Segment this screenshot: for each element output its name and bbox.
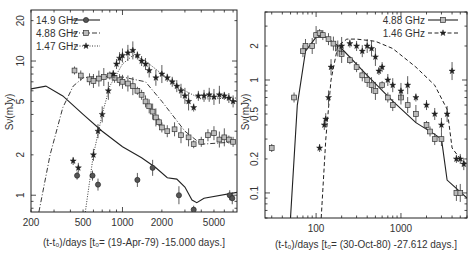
x-tick-label: 2000 bbox=[151, 217, 174, 228]
data-point bbox=[390, 103, 395, 108]
right-light-curve-plot: 10010000.10.20.512Sν(mJy)(t-t₀)/days [t₀… bbox=[240, 12, 467, 250]
data-point bbox=[424, 123, 429, 128]
data-point bbox=[222, 135, 227, 140]
data-point bbox=[354, 65, 359, 70]
data-point bbox=[428, 129, 433, 134]
data-layer bbox=[31, 41, 237, 213]
y-tick-label: 20 bbox=[15, 15, 26, 27]
data-point bbox=[143, 99, 148, 104]
x-tick-label: 100 bbox=[308, 223, 325, 234]
data-point bbox=[373, 89, 378, 94]
data-point bbox=[320, 33, 325, 38]
legend-marker bbox=[441, 18, 446, 23]
data-point bbox=[414, 112, 419, 117]
data-point bbox=[172, 127, 177, 132]
data-point bbox=[186, 135, 191, 140]
y-tick-label: 1 bbox=[249, 77, 260, 83]
model-curve bbox=[321, 39, 467, 218]
data-point bbox=[217, 137, 222, 142]
y-tick-label: 0.1 bbox=[249, 186, 260, 200]
data-point bbox=[120, 79, 125, 84]
data-point bbox=[74, 173, 79, 178]
legend-label: 14.9 GHz bbox=[36, 15, 78, 26]
data-point bbox=[191, 142, 196, 147]
data-point bbox=[150, 109, 155, 114]
data-point bbox=[347, 58, 352, 63]
legend-marker bbox=[83, 43, 89, 49]
x-tick-label: 5000 bbox=[203, 217, 226, 228]
y-tick-label: 0.2 bbox=[249, 152, 260, 166]
data-layer bbox=[269, 26, 467, 218]
x-axis-label: (t-t₀)/days [t₀= (19-Apr-79) -15.000 day… bbox=[43, 237, 225, 248]
data-point bbox=[179, 133, 184, 138]
data-point bbox=[303, 44, 308, 49]
data-point bbox=[212, 131, 217, 136]
data-point bbox=[125, 81, 130, 86]
legend-label: 4.88 GHz bbox=[383, 15, 425, 26]
data-point bbox=[326, 37, 331, 42]
data-point bbox=[96, 76, 101, 81]
data-point bbox=[165, 129, 170, 134]
x-tick-label: 200 bbox=[23, 217, 40, 228]
legend-marker bbox=[83, 17, 88, 22]
data-point bbox=[365, 78, 370, 83]
legend-label: 1.46 GHz bbox=[383, 28, 425, 39]
data-point bbox=[231, 139, 236, 144]
data-point bbox=[301, 49, 306, 54]
legend: 4.88 GHz1.46 GHz bbox=[383, 15, 458, 39]
y-tick-label: 5 bbox=[15, 98, 26, 104]
data-point bbox=[90, 173, 95, 178]
data-point bbox=[135, 177, 140, 182]
light-curve-figure: 2005001000200050001251020Sν(mJy)(t-t₀)/d… bbox=[0, 0, 474, 262]
data-point bbox=[230, 196, 235, 201]
data-point bbox=[385, 95, 390, 100]
data-point bbox=[101, 75, 106, 80]
model-curve bbox=[31, 86, 237, 203]
data-point bbox=[72, 68, 77, 73]
x-tick-label: 1000 bbox=[111, 217, 134, 228]
data-point bbox=[310, 44, 315, 49]
data-point bbox=[150, 165, 155, 170]
data-point bbox=[458, 191, 463, 196]
data-point bbox=[159, 125, 164, 130]
y-axis-label: Sν(mJy) bbox=[240, 94, 251, 131]
model-curve bbox=[39, 76, 237, 212]
y-tick-label: 10 bbox=[15, 55, 26, 67]
data-point bbox=[331, 41, 336, 46]
data-point bbox=[153, 115, 158, 120]
plot-frame bbox=[265, 12, 467, 218]
data-point bbox=[439, 137, 444, 142]
data-point bbox=[405, 103, 410, 108]
y-tick-label: 1 bbox=[15, 192, 26, 198]
data-point bbox=[206, 133, 211, 138]
data-point bbox=[130, 84, 135, 89]
y-axis-label: Sν(mJy) bbox=[4, 94, 15, 131]
left-light-curve-plot: 2005001000200050001251020Sν(mJy)(t-t₀)/d… bbox=[4, 10, 237, 248]
data-point bbox=[157, 120, 162, 125]
legend-label: 4.88 GHz bbox=[36, 28, 78, 39]
data-point bbox=[78, 73, 83, 78]
data-point bbox=[191, 207, 196, 212]
model-curve bbox=[291, 37, 468, 218]
data-point bbox=[95, 182, 100, 187]
data-point bbox=[360, 73, 365, 78]
data-point bbox=[292, 95, 297, 100]
x-axis-label: (t-t₀)/days [t₀= (30-Oct-80) -27.612 day… bbox=[275, 239, 457, 250]
x-tick-label: 500 bbox=[75, 217, 92, 228]
y-tick-label: 2 bbox=[249, 43, 260, 49]
data-point bbox=[176, 193, 181, 198]
data-point bbox=[139, 92, 144, 97]
y-tick-label: 2 bbox=[15, 152, 26, 158]
x-tick-label: 1000 bbox=[390, 223, 413, 234]
data-point bbox=[432, 137, 437, 142]
data-point bbox=[269, 146, 274, 151]
data-point bbox=[380, 83, 385, 88]
data-point bbox=[91, 79, 96, 84]
data-point bbox=[369, 83, 374, 88]
data-point bbox=[147, 104, 152, 109]
legend-label: 1.47 GHz bbox=[36, 41, 78, 52]
data-point bbox=[199, 139, 204, 144]
legend-marker bbox=[440, 30, 446, 36]
legend-marker bbox=[84, 31, 89, 36]
legend: 14.9 GHz4.88 GHz1.47 GHz bbox=[36, 15, 100, 52]
